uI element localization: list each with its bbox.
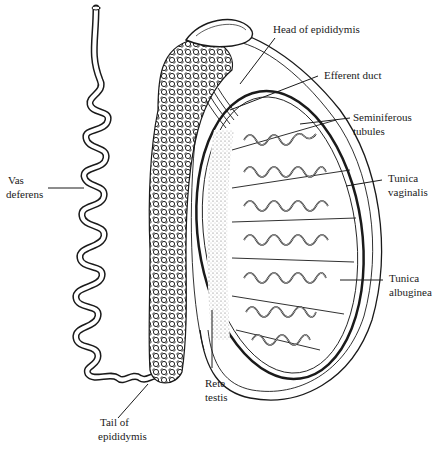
label-rete-testis-line2: testis: [205, 391, 228, 404]
label-tail-of-epididymis-line2: epididymis: [98, 430, 147, 443]
label-seminiferous-tubules-line2: tubules: [353, 125, 385, 138]
diagram-canvas: Head of epididymis Efferent duct Seminif…: [0, 0, 434, 454]
label-tail-of-epididymis-line1: Tail of: [100, 416, 129, 429]
label-rete-testis-line1: Rete: [205, 377, 225, 390]
label-tunica-vaginalis-line2: vaginalis: [388, 186, 428, 199]
label-seminiferous-tubules-line1: Seminiferous: [353, 111, 412, 124]
label-vas-deferens-line1: Vas: [8, 174, 24, 187]
label-tunica-vaginalis-line1: Tunica: [388, 172, 418, 185]
label-head-of-epididymis: Head of epididymis: [273, 23, 360, 36]
label-tunica-albuginea-line2: albuginea: [389, 286, 432, 299]
vas-deferens: [76, 6, 156, 380]
label-efferent-duct: Efferent duct: [324, 69, 382, 82]
label-tunica-albuginea-line1: Tunica: [389, 272, 419, 285]
label-vas-deferens-line2: deferens: [6, 188, 43, 201]
